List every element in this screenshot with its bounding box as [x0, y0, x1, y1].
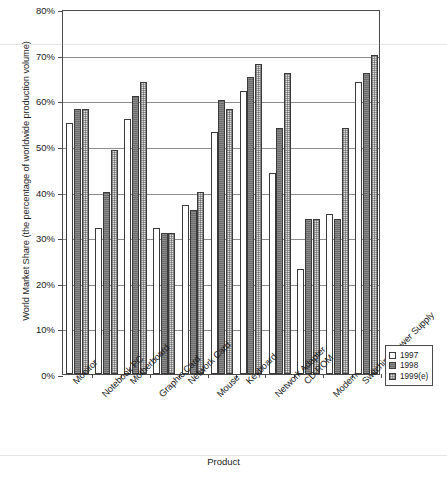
legend-label: 1999(e)	[400, 372, 428, 381]
bar[interactable]	[111, 150, 118, 374]
y-axis-tick-label: 20%	[36, 278, 55, 289]
bar-group	[265, 11, 294, 374]
bar[interactable]	[197, 192, 204, 375]
bar[interactable]	[371, 55, 378, 374]
legend-swatch-icon	[389, 373, 396, 380]
x-axis-tick	[150, 374, 151, 378]
y-axis-tick-label: 30%	[36, 233, 55, 244]
chart-container: World Market Share (the percentage of wo…	[0, 0, 447, 484]
bar[interactable]	[124, 119, 131, 375]
legend-swatch-icon	[389, 362, 396, 369]
bar[interactable]	[82, 109, 89, 374]
x-axis-tick	[381, 374, 382, 378]
x-axis-title: Product	[0, 456, 447, 467]
y-axis-tick-label: 60%	[36, 96, 55, 107]
bar-group	[92, 11, 121, 374]
bar[interactable]	[276, 128, 283, 374]
x-axis-tick	[92, 374, 93, 378]
bar[interactable]	[342, 128, 349, 374]
y-axis-tick-label: 70%	[36, 50, 55, 61]
legend-swatch-icon	[389, 352, 396, 359]
y-axis-tick-label: 50%	[36, 141, 55, 152]
bar[interactable]	[211, 132, 218, 374]
bar-group	[150, 11, 179, 374]
y-axis-tick-label: 0%	[41, 370, 55, 381]
bar[interactable]	[326, 214, 333, 374]
scan-artifact	[0, 455, 447, 456]
bar[interactable]	[284, 73, 291, 374]
bar[interactable]	[66, 123, 73, 374]
bar[interactable]	[269, 173, 276, 374]
y-axis-tick-label: 40%	[36, 187, 55, 198]
bar[interactable]	[190, 210, 197, 374]
bar-group	[179, 11, 208, 374]
y-axis-tick	[58, 376, 63, 377]
bar[interactable]	[140, 82, 147, 374]
bar[interactable]	[305, 219, 312, 374]
bar[interactable]	[182, 205, 189, 374]
scan-artifact	[0, 44, 447, 45]
bar[interactable]	[103, 192, 110, 375]
bar[interactable]	[363, 73, 370, 374]
y-axis-tick-label: 80%	[36, 5, 55, 16]
bar-group	[352, 11, 381, 374]
bar[interactable]	[334, 219, 341, 374]
x-axis-tick	[323, 374, 324, 378]
chart-legend: 199719981999(e)	[385, 345, 433, 386]
bar[interactable]	[240, 91, 247, 374]
bar[interactable]	[168, 233, 175, 374]
legend-label: 1997	[400, 351, 418, 360]
bar[interactable]	[74, 109, 81, 374]
bar-group	[236, 11, 265, 374]
legend-item[interactable]: 1998	[389, 361, 428, 370]
plot-area	[62, 10, 380, 375]
bar[interactable]	[247, 77, 254, 374]
bar[interactable]	[255, 64, 262, 374]
legend-item[interactable]: 1997	[389, 351, 428, 360]
legend-item[interactable]: 1999(e)	[389, 372, 428, 381]
y-axis-title: World Market Share (the percentage of wo…	[21, 1, 31, 361]
bar[interactable]	[297, 269, 304, 374]
bar[interactable]	[355, 82, 362, 374]
legend-label: 1998	[400, 361, 418, 370]
bar-group	[121, 11, 150, 374]
bar-group	[208, 11, 237, 374]
y-axis-tick-label: 10%	[36, 324, 55, 335]
bar-group	[323, 11, 352, 374]
x-axis-category-label: Mouse	[215, 373, 241, 399]
bar[interactable]	[218, 100, 225, 374]
bar-group	[63, 11, 92, 374]
bar-group	[294, 11, 323, 374]
x-axis-tick	[265, 374, 266, 378]
bar[interactable]	[95, 228, 102, 374]
x-axis-tick	[208, 374, 209, 378]
bar[interactable]	[132, 96, 139, 374]
bar[interactable]	[226, 109, 233, 374]
